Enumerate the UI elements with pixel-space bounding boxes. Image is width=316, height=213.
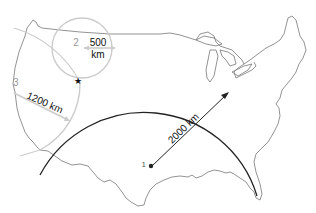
station-3-distance-label: 1200 km: [25, 90, 65, 116]
station-1-arrow: [152, 92, 229, 166]
triangulation-diagram: ★ 1 2 3 500 km 1200 km 2000 km: [0, 0, 316, 213]
station-2-distance-line2: km: [91, 49, 104, 60]
station-1-dot: [149, 164, 153, 168]
station-1-label: 1: [142, 160, 147, 169]
station-1-circle: [40, 112, 257, 196]
station-3-circle: [14, 28, 80, 156]
station-3-label: 3: [13, 77, 19, 88]
station-2-label: 2: [73, 37, 79, 48]
star-icon: ★: [74, 76, 82, 86]
station-2-distance-line1: 500: [90, 37, 107, 48]
